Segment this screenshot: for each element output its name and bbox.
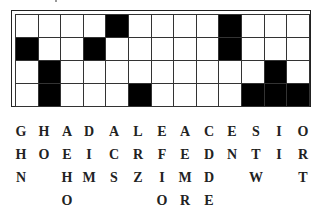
letter-tile[interactable]: R — [128, 143, 148, 166]
letter-tile[interactable]: O — [34, 143, 54, 166]
letter-tile[interactable]: D — [79, 120, 99, 143]
letter-tile[interactable]: M — [175, 166, 195, 189]
letter-tile[interactable]: E — [199, 189, 219, 212]
letter-tile[interactable]: I — [269, 120, 289, 143]
letter-column: DIM. — [79, 120, 99, 212]
letter-tile[interactable]: C — [104, 143, 124, 166]
letter-tile[interactable]: H — [11, 143, 31, 166]
letter-column: STW. — [246, 120, 266, 212]
letter-tile[interactable]: O — [293, 120, 313, 143]
letter-tile[interactable]: E — [152, 120, 172, 143]
letter-tile[interactable]: F — [152, 143, 172, 166]
letter-tile[interactable]: W — [246, 166, 266, 189]
letter-tile[interactable]: E — [222, 120, 242, 143]
letter-tile[interactable]: N — [11, 166, 31, 189]
letter-tile[interactable]: L — [128, 120, 148, 143]
letter-column: EFIO — [152, 120, 172, 212]
letter-column: ACS. — [104, 120, 124, 212]
letter-tile[interactable]: Z — [128, 166, 148, 189]
letter-tile[interactable]: C — [199, 120, 219, 143]
letter-tile[interactable]: A — [57, 120, 77, 143]
letter-column: AEHO — [57, 120, 77, 212]
letter-column: GHN. — [11, 120, 31, 212]
letter-column: EN.. — [222, 120, 242, 212]
letter-tile[interactable]: E — [57, 143, 77, 166]
letter-tile[interactable]: E — [175, 143, 195, 166]
letter-tile[interactable]: I — [269, 143, 289, 166]
letter-tile[interactable]: H — [34, 120, 54, 143]
letter-tile[interactable]: H — [57, 166, 77, 189]
letter-tile[interactable]: R — [175, 189, 195, 212]
letter-tile[interactable]: A — [175, 120, 195, 143]
letter-tile[interactable]: D — [199, 143, 219, 166]
letter-column: HO.. — [34, 120, 54, 212]
letter-tile[interactable]: M — [79, 166, 99, 189]
letter-tile[interactable]: S — [104, 166, 124, 189]
letter-tile[interactable]: G — [11, 120, 31, 143]
letter-tile[interactable]: N — [222, 143, 242, 166]
letter-tile[interactable]: I — [79, 143, 99, 166]
letter-tile[interactable]: A — [104, 120, 124, 143]
letter-tile[interactable]: R — [293, 143, 313, 166]
letter-tile[interactable]: O — [152, 189, 172, 212]
letter-column: AEMR — [175, 120, 195, 212]
letter-column: LRZ. — [128, 120, 148, 212]
letter-tile[interactable]: T — [293, 166, 313, 189]
letter-tile[interactable]: O — [57, 189, 77, 212]
letter-column: II.. — [269, 120, 289, 212]
letter-tile[interactable]: D — [199, 166, 219, 189]
letter-tile[interactable]: T — [246, 143, 266, 166]
letter-tile[interactable]: S — [246, 120, 266, 143]
letter-tile[interactable]: I — [152, 166, 172, 189]
letter-column: CDDE — [199, 120, 219, 212]
letter-column: ORT. — [293, 120, 313, 212]
letter-bank: GHN.HO..AEHODIM.ACS.LRZ.EFIOAEMRCDDEEN..… — [0, 0, 322, 212]
